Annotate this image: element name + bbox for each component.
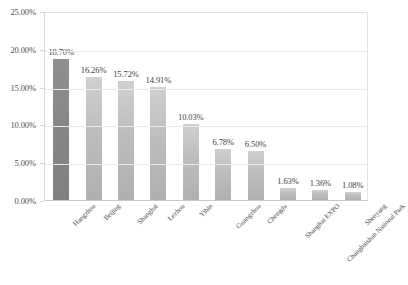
bar-slot: 10.03% [175, 11, 207, 200]
bar-value-label: 10.03% [178, 113, 204, 122]
bar-slot: 1.63% [272, 11, 304, 200]
bar-value-label: 15.72% [113, 70, 139, 79]
y-axis-tick-mark [40, 88, 44, 89]
x-axis-category-label: Hangzhou [72, 203, 97, 228]
gridline [45, 51, 367, 52]
bar[interactable]: 1.36% [312, 190, 328, 200]
bar-value-label: 6.78% [212, 138, 233, 147]
y-axis-tick-label: 25.00% [10, 8, 36, 17]
bar-slot: 15.72% [110, 11, 142, 200]
bar[interactable]: 1.08% [345, 192, 361, 200]
y-axis-tick-mark [40, 125, 44, 126]
bar[interactable]: 18.70% [53, 59, 69, 200]
bar-series: 18.70%16.26%15.72%14.91%10.03%6.78%6.50%… [45, 13, 367, 200]
x-axis-category-label: Lezhou [167, 203, 187, 223]
y-axis-tick-label: 5.00% [15, 159, 36, 168]
y-axis-tick-mark [40, 163, 44, 164]
x-axis-category-label: Shanghai EXPO [304, 203, 341, 240]
bar-slot: 14.91% [142, 11, 174, 200]
x-axis-category-label: Chengdu [266, 203, 289, 226]
bar-value-label: 6.50% [245, 140, 266, 149]
y-axis-tick-mark [40, 50, 44, 51]
bar-value-label: 18.70% [48, 48, 74, 57]
bar[interactable]: 1.63% [280, 188, 296, 200]
bar-slot: 1.08% [337, 11, 369, 200]
bar[interactable]: 6.78% [215, 149, 231, 200]
bar-slot: 1.36% [304, 11, 336, 200]
bar[interactable]: 14.91% [150, 87, 166, 200]
bar[interactable]: 15.72% [118, 81, 134, 200]
bar-value-label: 16.26% [81, 66, 107, 75]
y-axis-tick-mark [40, 12, 44, 13]
plot-area: 18.70%16.26%15.72%14.91%10.03%6.78%6.50%… [44, 12, 368, 201]
y-axis-tick-label: 10.00% [10, 121, 36, 130]
bar[interactable]: 16.26% [86, 77, 102, 200]
x-axis-labels: HangzhouBeijingShanghaiLezhouYibinGuangz… [44, 203, 368, 285]
y-axis-tick-mark [40, 201, 44, 202]
y-axis-tick-label: 20.00% [10, 46, 36, 55]
bar-slot: 18.70% [45, 11, 77, 200]
x-axis-category-label: Guangzhou [236, 203, 264, 231]
bar-value-label: 1.36% [310, 179, 331, 188]
bar-value-label: 1.63% [277, 177, 298, 186]
x-axis-category-label: Beijing [103, 203, 123, 223]
x-axis-category-label: Yibin [198, 203, 214, 219]
y-axis-tick-label: 0.00% [15, 197, 36, 206]
bar-slot: 6.50% [239, 11, 271, 200]
x-axis-category-label: Shanghai [137, 203, 160, 226]
gridline [45, 89, 367, 90]
gridline [45, 164, 367, 165]
bar[interactable]: 6.50% [248, 151, 264, 200]
gridline [45, 126, 367, 127]
bar-value-label: 1.08% [342, 181, 363, 190]
y-axis-labels: 25.00%20.00%15.00%10.00%5.00%0.00% [0, 0, 40, 285]
bar-slot: 6.78% [207, 11, 239, 200]
bar[interactable]: 10.03% [183, 124, 199, 200]
bar-value-label: 14.91% [146, 76, 172, 85]
bar-slot: 16.26% [77, 11, 109, 200]
y-axis-tick-label: 15.00% [10, 84, 36, 93]
